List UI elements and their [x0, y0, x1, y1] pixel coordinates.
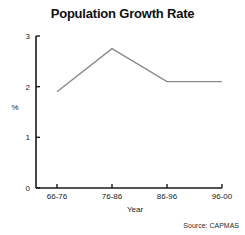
y-axis: 0123 — [26, 32, 40, 193]
chart-container: Population Growth Rate 0123 66-7676-8686… — [0, 0, 245, 235]
source-note: Source: CAPMAS — [183, 222, 239, 229]
y-tick-label: 1 — [26, 133, 31, 142]
x-tick-label: 66-76 — [47, 192, 68, 201]
y-tick-label: 3 — [26, 32, 31, 41]
y-axis-title: % — [11, 103, 18, 112]
y-tick-label: 0 — [26, 184, 31, 193]
x-tick-label: 86-96 — [157, 192, 178, 201]
x-tick-label: 96-00 — [212, 192, 233, 201]
chart-plot-area: 0123 66-7676-8686-9696-00 % Year — [0, 0, 245, 235]
y-tick-label: 2 — [26, 83, 31, 92]
x-axis-title: Year — [127, 205, 144, 214]
x-tick-label: 76-86 — [102, 192, 123, 201]
data-series-population-growth-rate — [57, 49, 222, 92]
x-axis: 66-7676-8686-9696-00 — [36, 184, 233, 201]
